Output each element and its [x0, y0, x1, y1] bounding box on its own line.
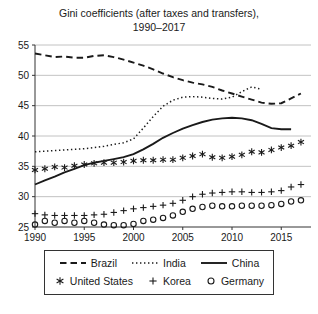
legend-label-korea: Korea — [163, 272, 191, 290]
legend-label-germany: Germany — [221, 272, 264, 290]
series-line-india — [35, 87, 262, 152]
x-tick-label-2000: 2000 — [122, 232, 145, 243]
legend-label-united-states: United States — [70, 272, 133, 290]
legend-label-brazil: Brazil — [91, 254, 117, 272]
x-tick-label-2015: 2015 — [270, 232, 293, 243]
chart-title-line2: 1990–2017 — [0, 21, 318, 35]
legend-item-united-states: United States — [54, 272, 133, 290]
series-line-brazil — [35, 54, 301, 104]
y-tick-label-25: 25 — [18, 222, 30, 233]
legend-item-brazil: Brazil — [59, 254, 117, 272]
x-tick-label-1995: 1995 — [73, 232, 96, 243]
series-india — [35, 87, 262, 152]
x-tick-label-2005: 2005 — [172, 232, 195, 243]
korea-marker-icon — [147, 275, 159, 287]
x-tick-label-1990: 1990 — [24, 232, 47, 243]
chart-legend: BrazilIndiaChinaUnited StatesKoreaGerman… — [44, 250, 274, 295]
chart-title-line1: Gini coefficients (after taxes and trans… — [0, 7, 318, 21]
india-line-sample — [131, 257, 159, 269]
series-brazil — [35, 54, 301, 104]
legend-item-china: China — [200, 254, 259, 272]
y-tick-label-50: 50 — [18, 70, 30, 81]
legend-item-germany: Germany — [205, 272, 264, 290]
series-korea — [32, 182, 304, 219]
y-tick-label-40: 40 — [18, 131, 30, 142]
y-tick-label-30: 30 — [18, 191, 30, 202]
x-tick-label-2010: 2010 — [221, 232, 244, 243]
legend-row-2: United StatesKoreaGermany — [54, 272, 264, 290]
china-line-sample — [200, 257, 228, 269]
legend-label-china: China — [232, 254, 259, 272]
gini-line-chart: 25303540455055199019952000200520102015 — [0, 35, 318, 249]
germany-marker-icon — [205, 275, 217, 287]
y-tick-label-45: 45 — [18, 100, 30, 111]
series-germany — [32, 198, 303, 228]
united-states-marker-icon — [54, 275, 66, 287]
legend-item-india: India — [131, 254, 186, 272]
series-united-states — [32, 139, 304, 174]
chart-title: Gini coefficients (after taxes and trans… — [0, 0, 318, 34]
brazil-line-sample — [59, 257, 87, 269]
legend-item-korea: Korea — [147, 272, 191, 290]
legend-row-1: BrazilIndiaChina — [54, 254, 264, 272]
legend-label-india: India — [163, 254, 186, 272]
y-tick-label-35: 35 — [18, 161, 30, 172]
y-tick-label-55: 55 — [18, 40, 30, 51]
